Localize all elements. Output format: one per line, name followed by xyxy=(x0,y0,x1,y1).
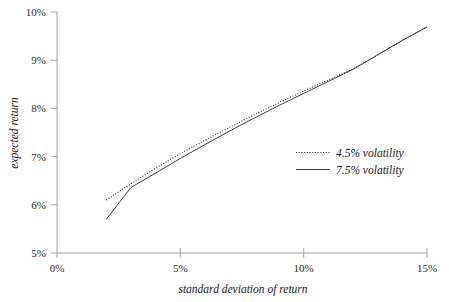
x-axis-title: standard deviation of return xyxy=(178,283,307,296)
y-tick-label: 9% xyxy=(31,54,46,66)
x-tick-label: 15% xyxy=(417,262,437,274)
series-group xyxy=(106,27,427,219)
legend-label-1: 7.5% volatility xyxy=(336,164,405,177)
y-axis-title: expected return xyxy=(8,97,21,169)
y-tick-label: 7% xyxy=(31,151,46,163)
x-axis-ticks: 0% 5% 10% 15% xyxy=(50,248,437,274)
y-axis-ticks: 10% 9% 8% 7% 6% 5% xyxy=(26,6,57,259)
x-tick-label: 0% xyxy=(50,262,65,274)
axis-group xyxy=(57,12,427,253)
x-tick-label: 10% xyxy=(294,262,314,274)
series-line-7-5-volatility xyxy=(106,27,427,219)
legend: 4.5% volatility 7.5% volatility xyxy=(296,147,405,177)
legend-label-0: 4.5% volatility xyxy=(336,147,405,160)
chart-figure: 10% 9% 8% 7% 6% 5% 0% 5% xyxy=(0,0,449,302)
line-chart-canvas: 10% 9% 8% 7% 6% 5% 0% 5% xyxy=(0,0,449,302)
y-tick-label: 10% xyxy=(26,6,46,18)
y-tick-label: 6% xyxy=(31,199,46,211)
y-tick-label: 8% xyxy=(31,102,46,114)
x-tick-label: 5% xyxy=(173,262,188,274)
y-tick-label: 5% xyxy=(31,247,46,259)
